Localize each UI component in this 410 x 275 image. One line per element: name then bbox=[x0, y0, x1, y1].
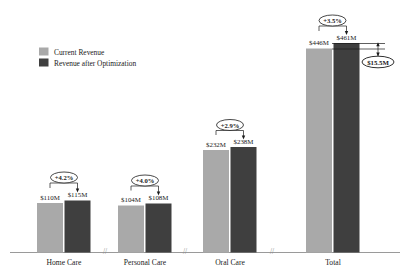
legend-swatch-revenue-after-optimization bbox=[39, 59, 49, 67]
growth-bracket-home-care: +4.2% bbox=[50, 172, 79, 193]
axis-category-label-oral-care: Oral Care bbox=[215, 258, 245, 267]
growth-label-home-care: +4.2% bbox=[55, 174, 74, 181]
bar-group-oral-care: $232M $238M +2.9% Oral Care bbox=[203, 120, 257, 268]
axis-category-label-total: Total bbox=[325, 258, 341, 267]
bar-personal-care-optimized[interactable] bbox=[146, 204, 172, 253]
value-label-total-current: $446M bbox=[309, 39, 329, 46]
bar-personal-care-current[interactable] bbox=[118, 206, 144, 253]
axis-break-marker-1: // bbox=[103, 247, 108, 256]
axis-category-label-personal-care: Personal Care bbox=[124, 258, 167, 267]
legend-label-revenue-after-optimization: Revenue after Optimization bbox=[54, 59, 136, 68]
bar-home-care-optimized[interactable] bbox=[65, 201, 91, 253]
axis-break-marker-2: // bbox=[183, 247, 188, 256]
bar-group-total: $446M $461M +3.5% $15.5M Total bbox=[306, 15, 394, 267]
bar-total-current[interactable] bbox=[306, 49, 332, 253]
delta-label-total: $15.5M bbox=[367, 59, 389, 66]
growth-label-personal-care: +4.0% bbox=[136, 177, 155, 184]
value-label-personal-care-current: $104M bbox=[121, 196, 141, 203]
revenue-optimization-bar-chart: Current Revenue Revenue after Optimizati… bbox=[0, 0, 410, 275]
growth-bracket-personal-care: +4.0% bbox=[131, 175, 160, 196]
bar-group-personal-care: $104M $108M +4.0% Personal Care bbox=[118, 175, 172, 267]
growth-label-total: +3.5% bbox=[323, 17, 342, 24]
value-label-oral-care-current: $232M bbox=[206, 141, 226, 148]
axis-break-marker-3: // bbox=[270, 247, 275, 256]
bar-oral-care-optimized[interactable] bbox=[231, 147, 257, 253]
growth-label-oral-care: +2.9% bbox=[221, 122, 240, 129]
chart-legend: Current Revenue Revenue after Optimizati… bbox=[39, 48, 136, 68]
chart-canvas: Current Revenue Revenue after Optimizati… bbox=[0, 0, 410, 275]
growth-bracket-oral-care: +2.9% bbox=[216, 120, 245, 140]
value-label-home-care-current: $110M bbox=[40, 194, 60, 201]
bar-total-optimized[interactable] bbox=[334, 43, 360, 253]
legend-label-current-revenue: Current Revenue bbox=[54, 48, 105, 57]
axis-category-label-home-care: Home Care bbox=[47, 258, 82, 267]
bar-home-care-current[interactable] bbox=[37, 203, 63, 253]
bar-oral-care-current[interactable] bbox=[203, 150, 229, 253]
growth-bracket-total: +3.5% bbox=[319, 15, 348, 35]
legend-swatch-current-revenue bbox=[39, 48, 49, 56]
